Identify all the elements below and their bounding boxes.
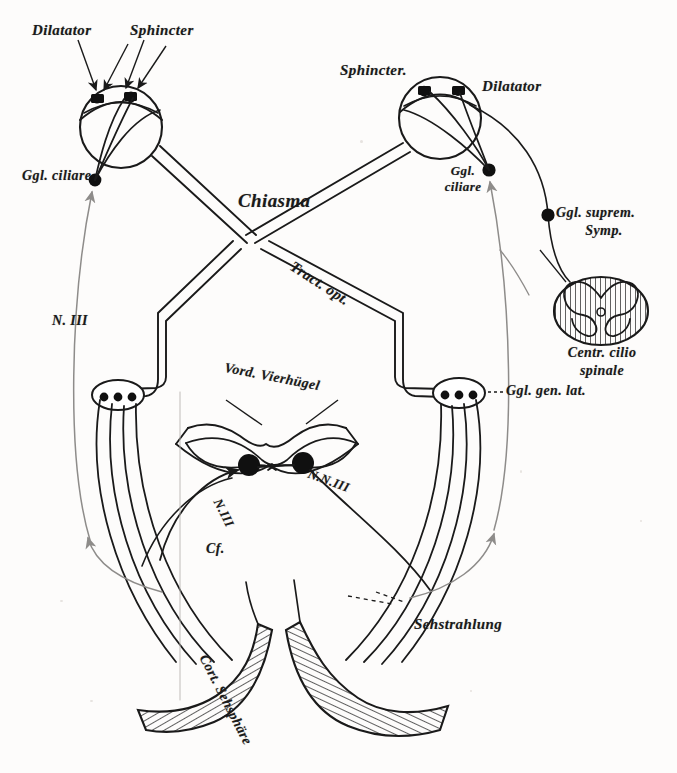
label-ggl-suprem-line2: Symp. xyxy=(556,223,652,239)
paper-speck xyxy=(60,600,63,602)
label-ggl-gen-lat: Ggl. gen. lat. xyxy=(506,383,586,399)
label-ggl-ciliare-left: Ggl. ciliare xyxy=(22,168,91,184)
label-sphincter-left: Sphincter xyxy=(130,22,194,39)
spinal-cord-cross-section xyxy=(554,277,648,345)
label-n-iii-left: N. III xyxy=(52,313,88,329)
label-centr-cilio-line1: Centr. cilio xyxy=(548,345,656,361)
label-centr-cilio-line2: spinale xyxy=(548,363,656,379)
label-sphincter-right: Sphincter. xyxy=(340,62,407,79)
paper-speck xyxy=(470,690,472,692)
left-eye-group xyxy=(80,86,162,168)
label-chiasma: Chiasma xyxy=(238,190,311,212)
left-efferent-path xyxy=(74,192,92,540)
spinal-leader xyxy=(540,250,566,282)
visual-cortex xyxy=(138,580,448,736)
label-dilatator-left: Dilatator xyxy=(32,22,91,39)
label-ggl-suprem-line1: Ggl. suprem. xyxy=(556,205,635,221)
label-ggl-ciliare-right-line1: Ggl. xyxy=(438,163,488,179)
sehstrahlung-leader xyxy=(348,596,392,604)
sphincter-left-leader xyxy=(126,40,144,88)
left-oculomotor-nucleus xyxy=(238,454,260,476)
diagram-canvas: Dilatator Sphincter Ggl. ciliare Sphinct… xyxy=(0,0,677,773)
label-ggl-ciliare-right-line2: ciliare xyxy=(432,179,494,195)
dilatator-left-leader xyxy=(78,40,96,90)
paper-speck xyxy=(520,470,522,473)
label-sehstrahlung: Sehstrahlung xyxy=(414,616,502,633)
paper-speck xyxy=(360,140,363,143)
label-dilatator-right: Dilatator xyxy=(482,78,541,95)
label-cf: Cf. xyxy=(206,541,225,557)
paper-speck xyxy=(640,520,642,522)
superior-cervical-ganglion xyxy=(541,208,554,221)
paper-speck xyxy=(90,700,93,702)
